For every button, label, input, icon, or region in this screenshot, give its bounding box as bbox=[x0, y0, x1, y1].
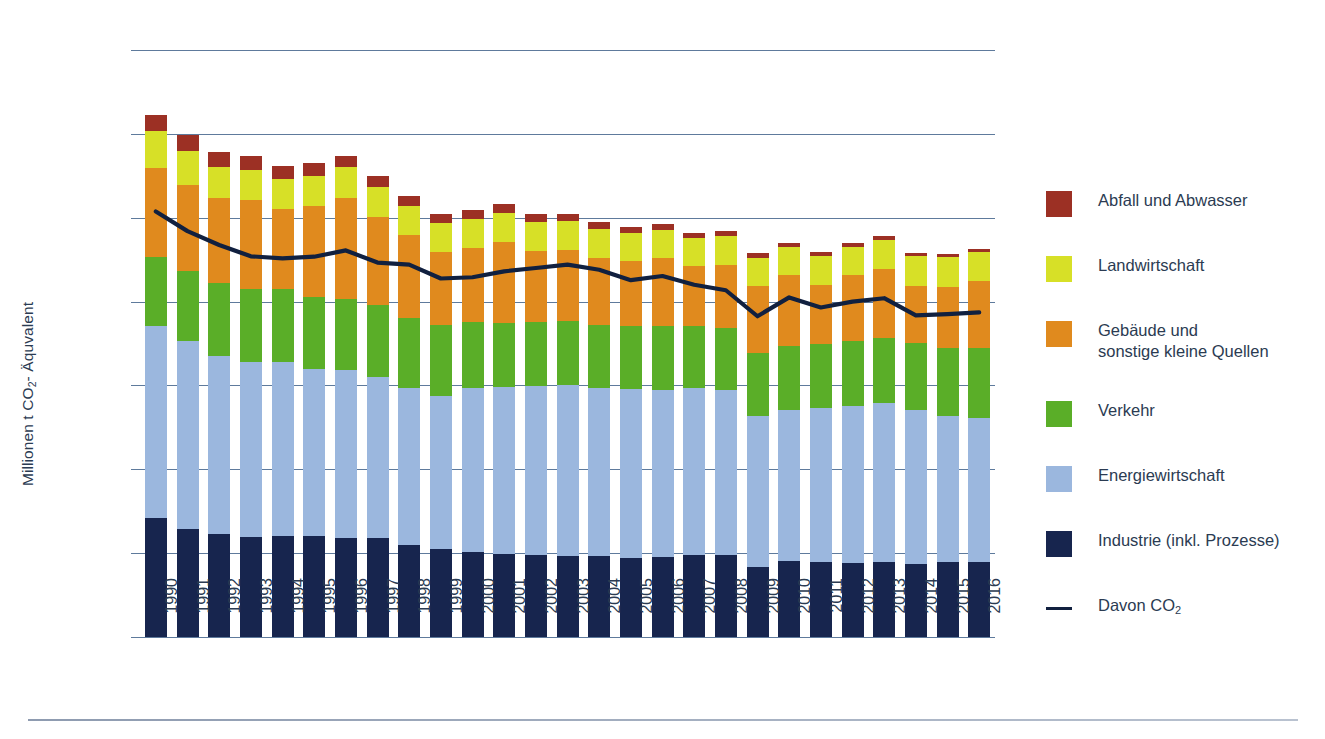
bar-segment bbox=[778, 247, 800, 275]
x-axis-tick-label: 1994 bbox=[290, 578, 308, 648]
bar-segment bbox=[335, 198, 357, 299]
legend-item-line[interactable]: Davon CO2 bbox=[1046, 595, 1321, 621]
bar-segment bbox=[493, 242, 515, 323]
bar-segment bbox=[303, 297, 325, 369]
gridline bbox=[140, 50, 995, 51]
bar-segment bbox=[683, 238, 705, 266]
bar-segment bbox=[778, 275, 800, 346]
bar-segment bbox=[588, 325, 610, 389]
y-axis-title: Millionen t CO2- Äquvalent bbox=[19, 229, 37, 559]
bar-segment bbox=[873, 338, 895, 403]
bar-segment bbox=[620, 233, 642, 261]
legend-color-swatch bbox=[1046, 401, 1072, 427]
plot-area: 1990199119921993199419951996199719981999… bbox=[140, 50, 995, 637]
bar-stack bbox=[145, 115, 167, 637]
bar-segment bbox=[652, 390, 674, 558]
bar-segment bbox=[715, 390, 737, 554]
y-axis-tick bbox=[131, 553, 140, 554]
bar-segment bbox=[493, 387, 515, 553]
y-axis-tick bbox=[131, 302, 140, 303]
legend-line-label: Davon CO2 bbox=[1098, 595, 1181, 618]
y-axis-tick bbox=[131, 134, 140, 135]
y-axis-title-tail: - Äquvalent bbox=[19, 302, 36, 382]
bar-segment bbox=[208, 283, 230, 356]
bar-segment bbox=[398, 196, 420, 206]
bar-segment bbox=[208, 356, 230, 534]
x-axis-tick-label: 1992 bbox=[226, 578, 244, 648]
bar-segment bbox=[462, 388, 484, 552]
bar-segment bbox=[968, 281, 990, 348]
bar-stack bbox=[367, 176, 389, 637]
x-axis-tick-label: 1995 bbox=[321, 578, 339, 648]
x-axis-tick-label: 2005 bbox=[638, 578, 656, 648]
legend-item-label: Abfall und Abwasser bbox=[1098, 190, 1248, 211]
bar-segment bbox=[462, 322, 484, 388]
x-axis-tick-label: 1998 bbox=[416, 578, 434, 648]
legend-item-label: Landwirtschaft bbox=[1098, 255, 1204, 276]
bar-segment bbox=[588, 222, 610, 229]
bar-segment bbox=[240, 200, 262, 289]
bar-segment bbox=[747, 353, 769, 416]
bar-segment bbox=[620, 389, 642, 558]
legend-color-swatch bbox=[1046, 466, 1072, 492]
y-axis-tick bbox=[131, 637, 140, 638]
legend-item[interactable]: Abfall und Abwasser bbox=[1046, 190, 1321, 217]
x-axis-tick-label: 2009 bbox=[765, 578, 783, 648]
bar-segment bbox=[873, 403, 895, 562]
bar-stack bbox=[462, 210, 484, 637]
bar-segment bbox=[557, 385, 579, 556]
bar-segment bbox=[778, 410, 800, 561]
bar-segment bbox=[208, 167, 230, 198]
legend-item[interactable]: Gebäude und sonstige kleine Quellen bbox=[1046, 320, 1321, 362]
legend-line-swatch bbox=[1046, 595, 1072, 621]
x-axis-tick-label: 2016 bbox=[986, 578, 1004, 648]
x-axis-tick-label: 1999 bbox=[448, 578, 466, 648]
bar-segment bbox=[398, 235, 420, 318]
bar-segment bbox=[367, 176, 389, 187]
bar-segment bbox=[747, 286, 769, 354]
bar-segment bbox=[715, 236, 737, 265]
bar-segment bbox=[303, 206, 325, 296]
legend-color-swatch bbox=[1046, 321, 1072, 347]
bar-segment bbox=[272, 209, 294, 289]
bar-segment bbox=[398, 388, 420, 545]
bar-segment bbox=[842, 341, 864, 406]
bar-segment bbox=[652, 326, 674, 389]
bar-stack bbox=[303, 163, 325, 637]
bar-segment bbox=[272, 289, 294, 362]
bar-segment bbox=[683, 266, 705, 325]
bar-segment bbox=[715, 328, 737, 390]
bar-segment bbox=[177, 341, 199, 530]
x-axis-tick-label: 1997 bbox=[385, 578, 403, 648]
legend-item[interactable]: Landwirtschaft bbox=[1046, 255, 1321, 282]
bar-segment bbox=[272, 362, 294, 535]
bar-segment bbox=[937, 287, 959, 348]
bar-segment bbox=[968, 418, 990, 562]
bar-segment bbox=[493, 204, 515, 212]
x-axis-tick-label: 2006 bbox=[670, 578, 688, 648]
bar-segment bbox=[303, 176, 325, 207]
legend-item[interactable]: Verkehr bbox=[1046, 400, 1321, 427]
bar-segment bbox=[652, 258, 674, 326]
bar-segment bbox=[588, 388, 610, 555]
x-axis-tick-label: 2013 bbox=[891, 578, 909, 648]
y-axis-title-main: Millionen t CO bbox=[19, 387, 36, 486]
x-axis-tick-label: 2015 bbox=[955, 578, 973, 648]
bar-segment bbox=[430, 252, 452, 325]
footer-divider bbox=[28, 719, 1298, 721]
legend-item[interactable]: Energiewirtschaft bbox=[1046, 465, 1321, 492]
bar-segment bbox=[905, 256, 927, 285]
x-axis-tick-label: 2007 bbox=[701, 578, 719, 648]
legend-item[interactable]: Industrie (inkl. Prozesse) bbox=[1046, 530, 1321, 557]
bar-segment bbox=[177, 151, 199, 185]
bar-segment bbox=[525, 222, 547, 251]
bar-segment bbox=[778, 346, 800, 409]
bar-segment bbox=[842, 275, 864, 341]
bar-segment bbox=[493, 323, 515, 387]
bar-segment bbox=[177, 271, 199, 340]
bar-segment bbox=[747, 258, 769, 286]
bar-segment bbox=[715, 265, 737, 329]
bar-segment bbox=[557, 221, 579, 250]
x-axis-tick-label: 2014 bbox=[923, 578, 941, 648]
x-axis-tick-label: 2000 bbox=[480, 578, 498, 648]
